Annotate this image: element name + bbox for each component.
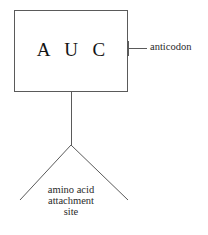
caption-line-2: attachment [11,195,131,206]
caption-line-1: amino acid [11,184,131,195]
anticodon-codon-text: A U C [0,40,142,59]
caption-line-3: site [11,206,131,217]
diagram-canvas: A U C anticodon amino acid attachment si… [0,0,208,235]
anticodon-label: anticodon [150,42,191,53]
amino-acid-attachment-site-label: amino acid attachment site [11,184,131,217]
